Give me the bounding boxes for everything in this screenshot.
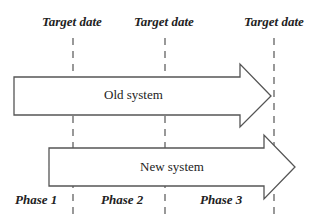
phase-label-1: Phase 1 <box>15 192 57 208</box>
old-system-label: Old system <box>104 87 163 103</box>
phase-label-2: Phase 2 <box>101 192 143 208</box>
target-date-label-3: Target date <box>244 14 304 30</box>
target-date-label-2: Target date <box>134 14 194 30</box>
phase-label-3: Phase 3 <box>200 192 242 208</box>
new-system-label: New system <box>140 159 204 175</box>
target-date-label-1: Target date <box>42 14 102 30</box>
diagram-canvas <box>0 0 317 222</box>
